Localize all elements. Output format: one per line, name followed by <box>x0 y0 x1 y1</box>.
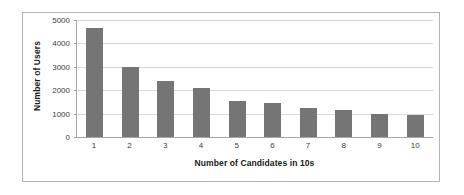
y-axis-tick-label: 2000 <box>52 86 70 95</box>
bar <box>86 28 103 137</box>
bar-slot <box>291 20 327 137</box>
bar-slot <box>219 20 255 137</box>
y-axis-tick-label: 1000 <box>52 109 70 118</box>
x-axis-tick-label: 3 <box>147 141 183 155</box>
x-axis-tick-labels: 12345678910 <box>76 141 433 155</box>
bar-slot <box>255 20 291 137</box>
x-axis-tick-label: 1 <box>76 141 112 155</box>
chart-frame: Number of Users 010002000300040005000 12… <box>22 12 440 182</box>
y-axis-tick-labels: 010002000300040005000 <box>45 13 73 139</box>
y-axis-tick-label: 4000 <box>52 39 70 48</box>
bar-slot <box>326 20 362 137</box>
x-axis-tick-label: 2 <box>112 141 148 155</box>
bar-slot <box>397 20 433 137</box>
bar <box>371 114 388 137</box>
x-axis-tick-label: 7 <box>290 141 326 155</box>
x-axis-tick-label: 5 <box>219 141 255 155</box>
bar-series <box>77 20 433 137</box>
y-axis-tick-label: 5000 <box>52 16 70 25</box>
bar <box>122 67 139 137</box>
bar <box>335 110 352 137</box>
x-axis-tick-label: 9 <box>362 141 398 155</box>
bar <box>264 103 281 137</box>
x-axis-tick-label: 10 <box>397 141 433 155</box>
x-axis-title: Number of Candidates in 10s <box>76 158 433 168</box>
bar-slot <box>362 20 398 137</box>
bar <box>193 88 210 137</box>
y-axis-title-text: Number of Users <box>32 41 42 111</box>
x-axis-tick-label: 4 <box>183 141 219 155</box>
bar <box>407 115 424 137</box>
bar-slot <box>148 20 184 137</box>
y-axis-title: Number of Users <box>29 13 45 139</box>
bar <box>300 108 317 137</box>
bar-slot <box>113 20 149 137</box>
y-axis-tick-label: 3000 <box>52 62 70 71</box>
x-axis-tick-label: 8 <box>326 141 362 155</box>
bar-slot <box>184 20 220 137</box>
plot-area <box>76 20 433 138</box>
x-axis-tick-label: 6 <box>255 141 291 155</box>
y-axis-tick-label: 0 <box>66 133 70 142</box>
y-axis-tickmark <box>74 137 77 138</box>
bar-slot <box>77 20 113 137</box>
bar <box>157 81 174 137</box>
bar <box>229 101 246 137</box>
